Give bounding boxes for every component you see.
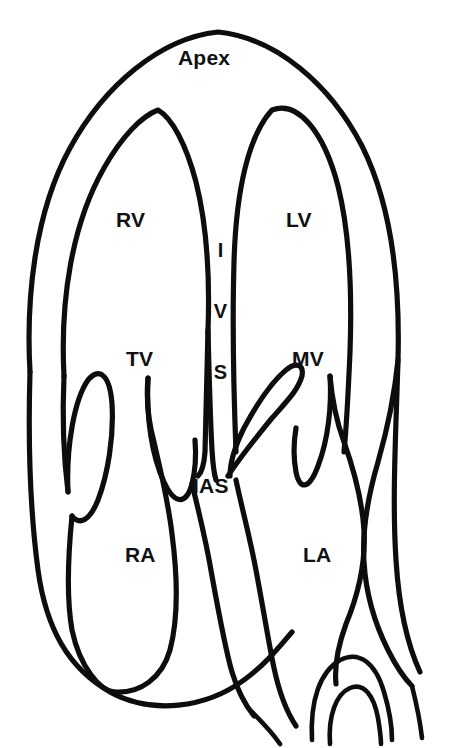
label-interatrial-septum: IAS bbox=[193, 475, 229, 496]
label-mitral-valve: MV bbox=[292, 348, 324, 369]
tricuspid-annulus-ra-wall bbox=[114, 378, 176, 692]
label-interventricular-septum: I V S bbox=[209, 199, 232, 423]
inferior-vessel-right-limb bbox=[412, 686, 422, 738]
mitral-valve-posterior-leaflet bbox=[294, 376, 330, 485]
label-right-atrium: RA bbox=[125, 544, 156, 565]
right-ventricle-cavity bbox=[63, 110, 208, 476]
ivs-letter-v: V bbox=[209, 301, 232, 321]
ivs-letter-i: I bbox=[209, 240, 232, 260]
label-left-ventricle: LV bbox=[286, 209, 312, 230]
label-tricuspid-valve: TV bbox=[126, 348, 153, 369]
label-right-ventricle: RV bbox=[116, 209, 145, 230]
heart-diagram: Apex RV LV I V S TV MV IAS RA LA bbox=[0, 0, 450, 748]
label-left-atrium: LA bbox=[303, 544, 331, 565]
ivs-letter-s: S bbox=[209, 362, 232, 382]
interatrial-septum-la-border bbox=[236, 480, 296, 726]
inferior-vessel-left-limb bbox=[252, 712, 280, 744]
tricuspid-valve-lateral-leaflet bbox=[68, 374, 113, 521]
label-apex: Apex bbox=[178, 47, 230, 68]
left-atrium-outer-wall bbox=[364, 360, 412, 686]
mitral-valve-anterior-leaflet bbox=[228, 365, 302, 476]
pulmonary-vein-inner-arc bbox=[330, 687, 381, 744]
